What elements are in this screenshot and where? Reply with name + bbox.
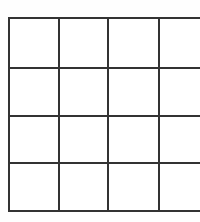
- grid-cell-r2c1[interactable]: [59, 116, 108, 163]
- table-row: [9, 18, 200, 68]
- grid-cell-text: [10, 164, 58, 210]
- grid-cell-r0c2[interactable]: [108, 18, 159, 68]
- grid-cell-r2c0[interactable]: [9, 116, 59, 163]
- grid-cell-r2c3[interactable]: [159, 116, 200, 163]
- grid-cell-text: [160, 164, 200, 210]
- grid-cell-text: [10, 69, 58, 115]
- grid-cell-text: [60, 69, 107, 115]
- grid-cell-text: [160, 19, 200, 67]
- grid-cell-text: [10, 117, 58, 162]
- grid-cell-r0c3[interactable]: [159, 18, 200, 68]
- grid-cell-r3c3[interactable]: [159, 163, 200, 211]
- grid-cell-text: [10, 19, 58, 67]
- table-row: [9, 116, 200, 163]
- grid-cell-text: [109, 164, 158, 210]
- grid-cell-r1c2[interactable]: [108, 68, 159, 116]
- grid-cell-text: [160, 117, 200, 162]
- grid-cell-r1c0[interactable]: [9, 68, 59, 116]
- grid-cell-r3c1[interactable]: [59, 163, 108, 211]
- grid-table: [8, 17, 200, 212]
- drawing-canvas: [0, 0, 200, 222]
- grid-cell-text: [60, 117, 107, 162]
- grid-cell-r1c3[interactable]: [159, 68, 200, 116]
- grid-cell-r3c0[interactable]: [9, 163, 59, 211]
- grid-cell-r0c1[interactable]: [59, 18, 108, 68]
- grid-cell-r2c2[interactable]: [108, 116, 159, 163]
- grid-cell-text: [109, 69, 158, 115]
- grid-cell-text: [60, 164, 107, 210]
- table-row: [9, 163, 200, 211]
- grid-cell-r3c2[interactable]: [108, 163, 159, 211]
- grid-cell-r0c0[interactable]: [9, 18, 59, 68]
- grid-cell-r1c1[interactable]: [59, 68, 108, 116]
- grid-cell-text: [160, 69, 200, 115]
- table-row: [9, 68, 200, 116]
- grid-cell-text: [109, 19, 158, 67]
- grid-cell-text: [60, 19, 107, 67]
- grid-table-body: [9, 18, 200, 211]
- grid-cell-text: [109, 117, 158, 162]
